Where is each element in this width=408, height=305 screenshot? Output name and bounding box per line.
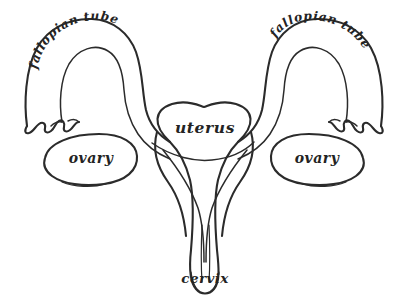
label-fallopian-tube-left: fallopian tube [26, 9, 121, 71]
label-fallopian-tube-right: fallopian tube [266, 9, 373, 52]
tube-left-fimbriae [25, 120, 79, 133]
tube-left-inner-wall [60, 47, 170, 159]
label-ovary-left: ovary [69, 150, 114, 166]
uterus-cavity-right [206, 150, 247, 262]
uterus-cavity-left [163, 150, 204, 262]
label-ovary-right: ovary [295, 150, 340, 166]
label-cervix: cervix [181, 270, 229, 286]
anatomy-diagram: fallopian tube fallopian tube ovary ovar… [0, 0, 408, 305]
anatomy-illustration: fallopian tube fallopian tube ovary ovar… [0, 0, 408, 305]
label-uterus: uterus [175, 118, 235, 137]
tube-right-fimbriae [329, 120, 383, 133]
